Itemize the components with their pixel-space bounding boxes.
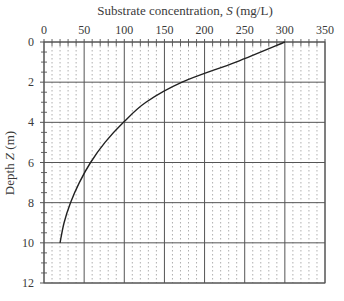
chart-svg: 050100150200250300350 024681012 Substrat… bbox=[0, 0, 344, 301]
y-tick-label: 12 bbox=[22, 276, 34, 290]
y-tick-label: 2 bbox=[28, 75, 34, 89]
x-tick-label: 200 bbox=[196, 23, 214, 37]
x-tick-label: 100 bbox=[115, 23, 133, 37]
y-tick-label: 4 bbox=[28, 115, 34, 129]
x-tick-label: 350 bbox=[316, 23, 334, 37]
y-axis-label: Depth Z (m) bbox=[2, 131, 17, 195]
x-tick-labels: 050100150200250300350 bbox=[41, 23, 334, 37]
x-tick-label: 0 bbox=[41, 23, 47, 37]
x-tick-label: 300 bbox=[276, 23, 294, 37]
depth-substrate-chart: 050100150200250300350 024681012 Substrat… bbox=[0, 0, 344, 301]
y-tick-label: 0 bbox=[28, 35, 34, 49]
y-tick-label: 8 bbox=[28, 196, 34, 210]
y-tick-labels: 024681012 bbox=[22, 35, 34, 290]
axis-ticks bbox=[41, 39, 317, 273]
y-tick-label: 6 bbox=[28, 156, 34, 170]
x-tick-label: 250 bbox=[236, 23, 254, 37]
major-gridlines bbox=[40, 39, 325, 283]
y-tick-label: 10 bbox=[22, 236, 34, 250]
x-tick-label: 150 bbox=[155, 23, 173, 37]
x-tick-label: 50 bbox=[78, 23, 90, 37]
x-axis-label: Substrate concentration, S (mg/L) bbox=[97, 3, 272, 18]
